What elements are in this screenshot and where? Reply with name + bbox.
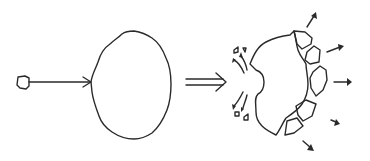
target-body — [91, 31, 171, 139]
fragments — [285, 31, 327, 135]
fragmented-body — [232, 31, 308, 135]
impact-diagram: Impact fragmentation sketch: projectile … — [0, 0, 370, 161]
implies-arrow-icon — [186, 73, 226, 91]
trajectory-arrow-icon — [29, 77, 91, 87]
projectile — [17, 76, 29, 89]
